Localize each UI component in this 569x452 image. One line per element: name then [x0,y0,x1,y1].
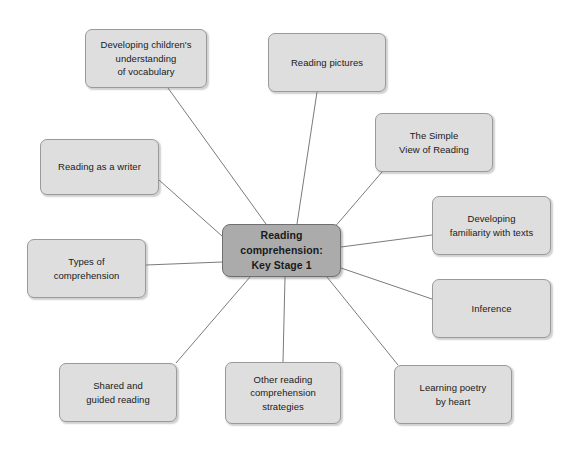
node-shared-guided-reading[interactable]: Shared and guided reading [59,363,177,422]
node-shared-guided-reading-label: Shared and guided reading [86,379,150,406]
node-types-of-comprehension-label: Types of comprehension [54,255,120,282]
node-simple-view-label: The Simple View of Reading [399,129,469,156]
edge-center-vocabulary [168,88,266,224]
edge-center-pictures [297,92,317,224]
edge-center-types [146,262,222,265]
node-other-strategies[interactable]: Other reading comprehension strategies [225,362,341,424]
edge-center-inference [341,268,432,299]
node-types-of-comprehension[interactable]: Types of comprehension [27,239,146,298]
node-reading-pictures-label: Reading pictures [291,56,363,69]
center-node[interactable]: Reading comprehension: Key Stage 1 [222,224,341,277]
node-other-strategies-label: Other reading comprehension strategies [250,373,316,413]
node-inference[interactable]: Inference [432,279,551,338]
edge-center-writer [159,180,222,236]
edge-center-familiarity [341,235,432,247]
node-reading-as-a-writer-label: Reading as a writer [58,160,141,173]
mind-map-canvas: Reading comprehension: Key Stage 1 Devel… [0,0,569,452]
node-vocabulary-label: Developing children's understanding of v… [100,38,191,78]
edge-center-other-strategies [283,277,285,362]
node-familiarity[interactable]: Developing familiarity with texts [432,196,551,255]
node-reading-as-a-writer[interactable]: Reading as a writer [40,139,159,195]
edge-center-simple-view [333,172,382,229]
node-reading-pictures[interactable]: Reading pictures [268,33,386,92]
edge-center-poetry [327,277,398,365]
edge-center-shared-guided [176,277,250,363]
node-simple-view[interactable]: The Simple View of Reading [375,113,493,172]
center-node-label: Reading comprehension: Key Stage 1 [240,228,322,274]
node-familiarity-label: Developing familiarity with texts [450,212,533,239]
node-inference-label: Inference [471,302,511,315]
node-learning-poetry[interactable]: Learning poetry by heart [394,365,512,424]
node-learning-poetry-label: Learning poetry by heart [420,381,487,408]
node-vocabulary[interactable]: Developing children's understanding of v… [85,29,207,88]
